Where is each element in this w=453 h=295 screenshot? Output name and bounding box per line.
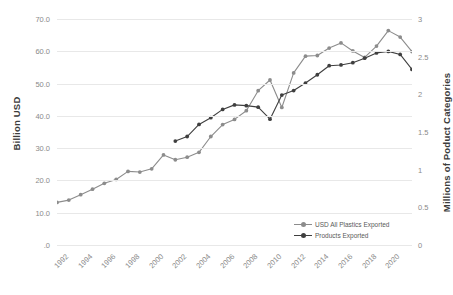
data-point [386,29,390,33]
gridline [57,148,412,149]
y-axis-right-tick-label: 1 [418,166,444,175]
y-axis-left-tick-label: 60.0 [18,47,50,56]
data-point [221,108,225,112]
y-axis-right-tick-label: 1.5 [418,128,444,137]
data-point [233,103,237,107]
data-point [398,53,402,57]
series-layer [57,19,412,245]
legend-item[interactable]: USD All Plastics Exported [294,219,389,230]
y-axis-left-tick-label: 40.0 [18,112,50,121]
data-point [244,104,248,108]
data-point [315,73,319,77]
data-point [363,56,367,60]
data-point [173,139,177,143]
legend-item[interactable]: Products Exported [294,230,389,241]
chart-container: Billion USD Millions of Poduct Categorie… [0,0,453,295]
data-point [91,187,95,191]
y-axis-left-tick-label: 10.0 [18,209,50,218]
data-point [150,167,154,171]
data-point [197,150,201,154]
gridline [57,245,412,246]
y-axis-right-tick-label: 0 [418,241,444,250]
data-point [292,89,296,93]
data-point [67,198,71,202]
data-point [221,123,225,127]
data-point [256,105,260,109]
data-point [233,118,237,122]
y-axis-left-tick-label: 50.0 [18,80,50,89]
data-point [185,135,189,139]
plot-area [57,19,412,245]
data-point [138,170,142,174]
data-point [173,158,177,162]
data-point [280,93,284,97]
y-axis-right-tick-label: 2 [418,90,444,99]
data-point [185,155,189,159]
legend-label: USD All Plastics Exported [315,219,389,230]
data-point [256,89,260,93]
gridline [57,51,412,52]
data-point [339,41,343,45]
data-point [351,61,355,65]
data-point [57,200,59,204]
data-point [339,63,343,67]
legend-label: Products Exported [315,230,368,241]
data-point [327,64,331,68]
y-axis-left-tick-label: 30.0 [18,144,50,153]
data-point [79,193,83,197]
y-axis-right-tick-label: 2.5 [418,53,444,62]
data-point [244,109,248,113]
data-point [209,135,213,139]
data-point [292,71,296,75]
chart-legend: USD All Plastics ExportedProducts Export… [294,219,389,241]
y-axis-left-tick-label: .0 [18,241,50,250]
y-axis-right-tick-label: 0.5 [418,203,444,212]
data-point [268,117,272,121]
data-point [162,153,166,157]
legend-marker-icon [294,221,312,229]
gridline [57,213,412,214]
gridline [57,84,412,85]
series-line [175,51,412,141]
data-point [126,169,130,173]
y-axis-right-title: Millions of Poduct Categories [441,63,452,223]
data-point [268,78,272,82]
gridline [57,116,412,117]
data-point [327,46,331,50]
y-axis-left-tick-label: 70.0 [18,15,50,24]
data-point [315,54,319,58]
data-point [102,181,106,185]
data-point [398,35,402,39]
gridline [57,19,412,20]
data-point [280,106,284,110]
y-axis-right-tick-label: 3 [418,15,444,24]
data-point [375,44,379,48]
gridline [57,180,412,181]
legend-marker-icon [294,232,312,240]
y-axis-left-tick-label: 20.0 [18,176,50,185]
data-point [304,54,308,58]
data-point [197,123,201,127]
